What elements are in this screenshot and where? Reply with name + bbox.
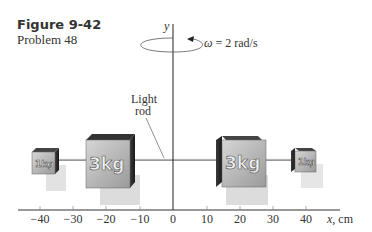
mass-label: 3kg [89, 154, 124, 174]
mass-right-1kg: 1kg [291, 148, 316, 172]
x-tick-label: −30 [64, 212, 83, 226]
mass-label: 3kg [225, 153, 260, 173]
rod-label-line2: rod [135, 104, 151, 118]
rotation-indicator [141, 36, 203, 52]
mass-left-3kg: 3kg [86, 134, 135, 188]
mass-label: 1kg [35, 159, 54, 169]
x-tick-label: 0 [170, 212, 176, 226]
omega-label: ω = 2 rad/s [204, 36, 258, 50]
x-tick-label: 40 [300, 212, 312, 226]
x-tick-label: −20 [97, 212, 116, 226]
y-axis-label: y [163, 19, 170, 33]
mass-right-3kg: 3kg [216, 136, 266, 187]
rod-label-leader [146, 118, 164, 158]
x-tick-label: 10 [201, 212, 213, 226]
mass-label: 1kg [298, 158, 315, 167]
x-tick-labels: −40 −30 −20 −10 0 10 20 30 40 [31, 212, 312, 226]
x-tick-label: −40 [31, 212, 50, 226]
x-axis-label: x, cm [326, 212, 354, 226]
x-tick-label: 30 [267, 212, 279, 226]
diagram-canvas: y ω = 2 rad/s Light rod 1kg 3kg 3kg 1kg [0, 0, 372, 232]
mass-left-1kg: 1kg [32, 148, 59, 174]
x-tick-label: 20 [234, 212, 246, 226]
rotation-arrow-icon [187, 36, 194, 42]
x-tick-label: −10 [131, 212, 150, 226]
